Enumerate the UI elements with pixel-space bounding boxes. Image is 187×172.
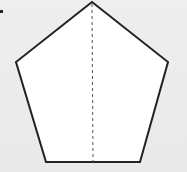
pentagon-figure	[0, 0, 187, 172]
pentagon	[16, 2, 168, 162]
diagram-canvas	[0, 0, 187, 172]
